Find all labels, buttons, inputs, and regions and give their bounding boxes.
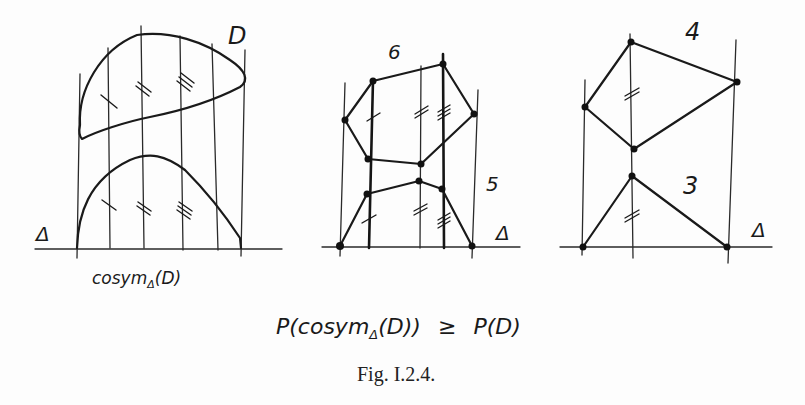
tick-mark xyxy=(415,106,428,114)
axis-delta-label-left: Δ xyxy=(36,222,50,246)
triangle-outline xyxy=(583,176,727,247)
tick-mark xyxy=(179,202,192,211)
region-d-label: D xyxy=(228,22,246,50)
tick-mark xyxy=(625,88,639,96)
left-panel xyxy=(35,26,282,258)
vertical-line xyxy=(180,36,183,250)
tick-mark xyxy=(177,210,190,219)
tick-mark xyxy=(181,73,194,83)
formula-mid: (D)) xyxy=(378,314,421,339)
cosym-argument: (D) xyxy=(155,268,181,288)
vertical-line xyxy=(212,44,218,250)
diagram-svg xyxy=(0,0,805,405)
vertical-line xyxy=(369,80,373,248)
formula-rhs: P(D) xyxy=(473,314,520,339)
quadrilateral-count-label: 4 xyxy=(685,18,700,46)
triangle-count-label: 3 xyxy=(683,172,698,200)
hexagon-count-label: 6 xyxy=(388,40,401,64)
tick-mark xyxy=(625,92,639,100)
vertical-line xyxy=(443,54,444,248)
pentagon-outline xyxy=(340,181,472,246)
formula-lhs: P(cosym xyxy=(276,314,369,339)
formula-subscript: Δ xyxy=(369,327,378,342)
tick-mark xyxy=(138,202,151,211)
cosym-label: cosymΔ(D) xyxy=(92,268,181,291)
quadrilateral-outline xyxy=(585,42,737,149)
hexagon-outline xyxy=(345,64,474,164)
formula-relation: ≥ xyxy=(438,314,456,339)
axis-delta-label-middle: Δ xyxy=(496,221,510,245)
vertical-line xyxy=(420,66,421,248)
figure-caption: Fig. I.2.4. xyxy=(357,363,435,386)
figure-canvas: D Δ cosymΔ(D) 6 5 Δ 4 3 Δ P(cosymΔ(D)) ≥… xyxy=(0,0,805,405)
vertex-dots xyxy=(336,61,478,251)
vertical-line xyxy=(108,48,110,248)
tick-mark xyxy=(178,206,191,215)
axis-delta-label-right: Δ xyxy=(752,218,766,242)
cosym-text: cosym xyxy=(92,268,147,288)
region-d-outline xyxy=(79,34,245,139)
tick-mark xyxy=(415,110,428,118)
tick-mark xyxy=(177,81,190,91)
tick-mark xyxy=(367,113,380,121)
inequality-formula: P(cosymΔ(D)) ≥ P(D) xyxy=(276,314,521,342)
cosym-subscript: Δ xyxy=(147,278,155,291)
right-panel xyxy=(560,34,772,263)
vertical-line xyxy=(340,83,345,256)
pentagon-count-label: 5 xyxy=(486,172,499,196)
middle-panel xyxy=(322,54,520,258)
vertical-line xyxy=(728,40,736,263)
tick-mark xyxy=(138,82,151,92)
vertical-line xyxy=(141,26,144,248)
